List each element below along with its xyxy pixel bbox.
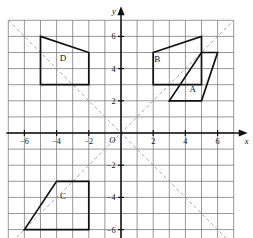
x-tick-label: −2 — [84, 137, 93, 146]
x-tick-label: −6 — [20, 137, 29, 146]
y-tick-label: −6 — [107, 226, 116, 235]
polygon-label-c: C — [60, 191, 66, 201]
y-tick-label: −2 — [107, 161, 116, 170]
y-axis-label: y — [111, 6, 116, 16]
x-tick-label: 4 — [183, 137, 187, 146]
y-axis-arrow — [117, 6, 124, 15]
x-tick-label: 6 — [216, 137, 220, 146]
coordinate-plane-figure: −6−4−2246642−2−4−6Oxy ABCD — [0, 0, 253, 238]
x-tick-label: 2 — [151, 137, 155, 146]
polygon-label-d: D — [60, 53, 67, 63]
y-tick-label: 6 — [111, 32, 115, 41]
y-tick-label: 2 — [111, 97, 115, 106]
polygon-labels: ABCD — [60, 53, 197, 201]
y-tick-label: 4 — [111, 65, 115, 74]
polygon-label-a: A — [189, 84, 196, 94]
coordinate-grid-svg: −6−4−2246642−2−4−6Oxy ABCD — [0, 0, 253, 238]
x-axis-label: x — [244, 136, 249, 146]
polygon-b — [153, 36, 201, 84]
y-tick-label: −4 — [107, 193, 116, 202]
polygon-label-b: B — [154, 54, 160, 64]
x-tick-label: −4 — [52, 137, 61, 146]
origin-label: O — [109, 135, 115, 145]
